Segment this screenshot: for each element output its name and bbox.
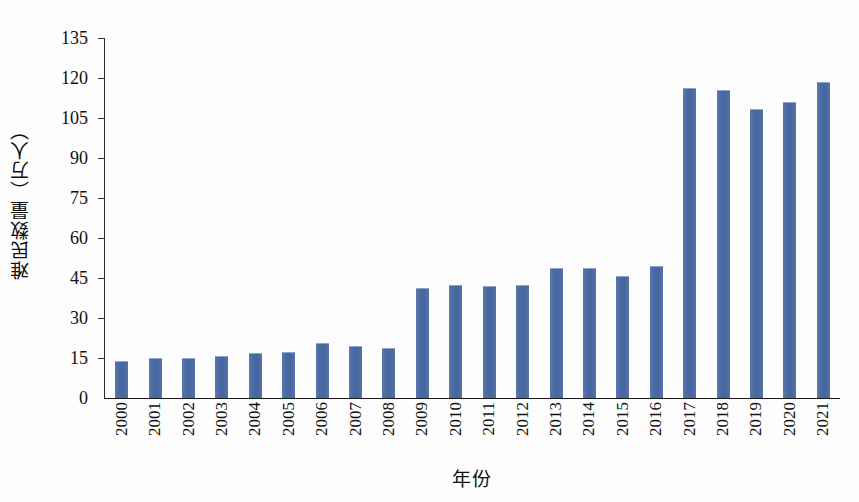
y-tick-label: 90 — [70, 149, 88, 167]
x-tick-label-text: 2002 — [179, 402, 196, 436]
x-tick-label-text: 2008 — [379, 402, 396, 436]
y-tick-label: 15 — [70, 349, 88, 367]
x-tick-label-text: 2006 — [313, 402, 330, 436]
bars-layer — [105, 38, 840, 398]
bar — [282, 352, 295, 398]
y-tick-mark — [98, 78, 105, 79]
x-tick-label-text: 2021 — [814, 402, 831, 436]
bar — [650, 266, 663, 398]
refugee-bar-chart: 难民数量（万人） 0153045607590105120135 20002001… — [0, 0, 859, 502]
bar — [516, 285, 529, 398]
bar — [182, 358, 195, 398]
x-axis-tick-labels: 2000200120022003200420052006200720082009… — [104, 402, 839, 464]
bar — [449, 285, 462, 398]
bar — [316, 343, 329, 398]
y-tick-mark — [98, 118, 105, 119]
x-tick-label-text: 2019 — [747, 402, 764, 436]
x-tick-label-text: 2017 — [680, 402, 697, 436]
bar — [583, 268, 596, 398]
y-tick-label: 135 — [61, 29, 88, 47]
x-tick-label-text: 2005 — [279, 402, 296, 436]
plot-area — [104, 38, 840, 399]
bar — [483, 286, 496, 398]
y-tick-label: 75 — [70, 189, 88, 207]
bar — [717, 90, 730, 398]
y-tick-label: 60 — [70, 229, 88, 247]
bar — [616, 276, 629, 398]
bar — [550, 268, 563, 398]
y-tick-label: 45 — [70, 269, 88, 287]
y-tick-label: 120 — [61, 69, 88, 87]
bar — [783, 102, 796, 398]
x-tick-label-text: 2010 — [446, 402, 463, 436]
x-tick-label-text: 2018 — [714, 402, 731, 436]
y-axis-title: 难民数量（万人） — [0, 0, 40, 400]
x-tick-label-text: 2016 — [647, 402, 664, 436]
bar — [115, 361, 128, 398]
y-tick-mark — [98, 358, 105, 359]
bar — [382, 348, 395, 398]
x-tick-label-text: 2012 — [513, 402, 530, 436]
bar — [349, 346, 362, 398]
y-tick-mark — [98, 198, 105, 199]
y-tick-label: 105 — [61, 109, 88, 127]
x-tick-label-text: 2007 — [346, 402, 363, 436]
y-tick-mark — [98, 38, 105, 39]
x-tick-label-text: 2011 — [480, 402, 497, 435]
y-tick-label: 0 — [79, 389, 88, 407]
x-tick-label-text: 2014 — [580, 402, 597, 436]
bar — [683, 88, 696, 398]
x-tick-label-text: 2003 — [212, 402, 229, 436]
x-tick-label-text: 2015 — [613, 402, 630, 436]
y-axis-tick-labels: 0153045607590105120135 — [40, 0, 98, 502]
x-tick-label-text: 2009 — [413, 402, 430, 436]
bar — [750, 109, 763, 398]
x-tick-label-text: 2013 — [547, 402, 564, 436]
x-tick-label-text: 2001 — [146, 402, 163, 436]
x-tick-label-text: 2000 — [112, 402, 129, 436]
y-tick-mark — [98, 318, 105, 319]
bar — [249, 353, 262, 398]
bar — [817, 82, 830, 398]
y-tick-label: 30 — [70, 309, 88, 327]
bar — [416, 288, 429, 398]
bar — [149, 358, 162, 398]
x-tick-label-text: 2020 — [780, 402, 797, 436]
y-tick-mark — [98, 278, 105, 279]
y-tick-mark — [98, 158, 105, 159]
x-tick-label-text: 2004 — [246, 402, 263, 436]
x-axis-title: 年份 — [104, 464, 839, 491]
y-axis-title-text: 难民数量（万人） — [7, 120, 34, 280]
y-tick-mark — [98, 238, 105, 239]
bar — [215, 356, 228, 398]
